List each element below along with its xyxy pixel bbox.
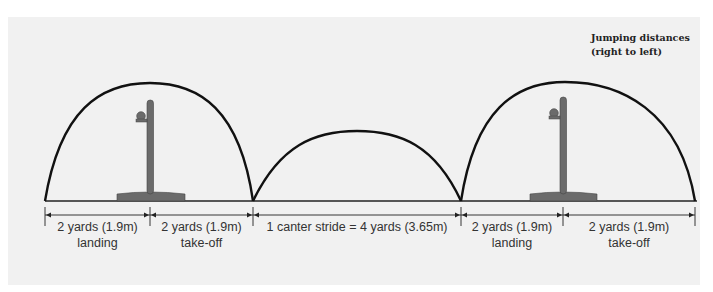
fence-post-1 xyxy=(117,100,185,201)
canter-stride-arc xyxy=(253,131,461,201)
segment-phase: take-off xyxy=(563,236,695,250)
segment-phase: landing xyxy=(45,236,150,250)
post-upright xyxy=(560,97,567,194)
segment-phase: take-off xyxy=(150,236,253,250)
segment-distance: 2 yards (1.9m) xyxy=(461,220,563,234)
segment-distance: 2 yards (1.9m) xyxy=(150,220,253,234)
segment-distance: 1 canter stride = 4 yards (3.65m) xyxy=(253,220,461,234)
jump-arc-2 xyxy=(461,82,695,201)
segment-phase: landing xyxy=(461,236,563,250)
segment-label-5: 2 yards (1.9m) take-off xyxy=(563,220,695,250)
segment-distance: 2 yards (1.9m) xyxy=(45,220,150,234)
segment-label-4: 2 yards (1.9m) landing xyxy=(461,220,563,250)
segment-distance: 2 yards (1.9m) xyxy=(563,220,695,234)
post-upright xyxy=(147,100,154,194)
segment-label-2: 2 yards (1.9m) take-off xyxy=(150,220,253,250)
segment-label-1: 2 yards (1.9m) landing xyxy=(45,220,150,250)
segment-label-3: 1 canter stride = 4 yards (3.65m) xyxy=(253,220,461,234)
fence-post-2 xyxy=(530,97,597,201)
